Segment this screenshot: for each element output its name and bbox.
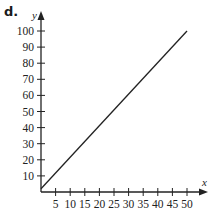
x-tick-label: 15 xyxy=(79,198,91,210)
x-tick-label: 25 xyxy=(108,198,120,210)
x-axis-arrow-icon xyxy=(199,189,208,196)
y-tick-label: 20 xyxy=(23,154,35,166)
x-axis-label: x xyxy=(201,176,207,188)
y-tick-label: 100 xyxy=(17,25,35,37)
y-tick-label: 90 xyxy=(23,41,35,53)
x-tick-label: 50 xyxy=(181,198,193,210)
x-tick-label: 20 xyxy=(94,198,106,210)
y-tick-label: 40 xyxy=(23,122,35,134)
line-chart: xy 5101520253035404550102030405060708090… xyxy=(0,0,213,216)
x-tick-label: 40 xyxy=(152,198,164,210)
x-tick-label: 35 xyxy=(137,198,149,210)
y-tick-label: 10 xyxy=(23,170,35,182)
x-tick-label: 5 xyxy=(53,198,59,210)
y-tick-label: 80 xyxy=(23,57,35,69)
x-tick-label: 10 xyxy=(64,198,76,210)
y-tick-label: 60 xyxy=(23,89,35,101)
y-axis-arrow-icon xyxy=(38,11,45,20)
y-tick-label: 30 xyxy=(23,138,35,150)
data-line xyxy=(41,31,187,189)
y-axis-label: y xyxy=(31,9,37,21)
x-tick-label: 30 xyxy=(123,198,135,210)
y-tick-label: 50 xyxy=(23,106,35,118)
x-tick-label: 45 xyxy=(167,198,179,210)
y-tick-label: 70 xyxy=(23,73,35,85)
data-lines xyxy=(41,31,187,189)
